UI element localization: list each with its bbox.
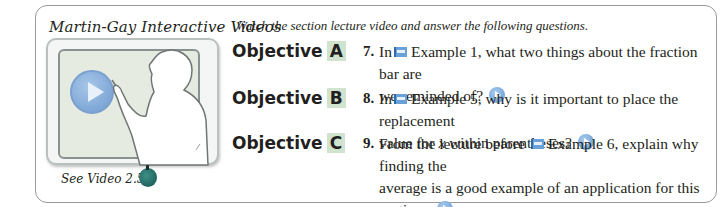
objective-letter: A (327, 41, 346, 61)
video-flag-icon[interactable] (394, 94, 407, 104)
objective-label: ObjectiveB (232, 88, 346, 108)
presenter-silhouette-icon (100, 40, 220, 170)
question-number: 9. (363, 135, 374, 152)
objective-letter: B (327, 88, 346, 108)
see-video-caption[interactable]: See Video 2.5 (61, 172, 144, 186)
video-flag-icon[interactable] (394, 47, 407, 57)
objective-letter: C (327, 133, 345, 153)
question-number: 7. (363, 43, 374, 60)
instructions-text: Watch the section lecture video and answ… (236, 18, 588, 34)
objective-label: ObjectiveC (232, 133, 345, 153)
question-number: 8. (363, 90, 374, 107)
play-icon[interactable] (437, 201, 453, 207)
apple-icon (139, 168, 157, 187)
video-flag-icon[interactable] (531, 139, 544, 149)
question-text: From the lecture beforeExample 6, explai… (379, 133, 714, 207)
objective-label: ObjectiveA (232, 41, 346, 61)
